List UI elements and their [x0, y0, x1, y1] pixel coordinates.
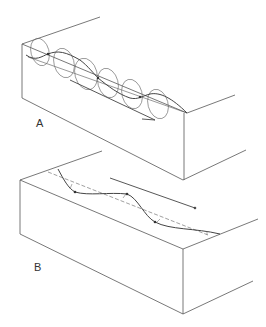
- panel-label-b: B: [34, 261, 41, 273]
- wave-path-b: [58, 169, 220, 234]
- panel-label-a: A: [36, 117, 43, 129]
- block-b: [20, 151, 258, 314]
- wave-points-b: [74, 191, 157, 224]
- orbit-ellipses-a: [28, 36, 172, 121]
- wave-diagram: [0, 0, 266, 327]
- wave-path-a: [26, 52, 187, 113]
